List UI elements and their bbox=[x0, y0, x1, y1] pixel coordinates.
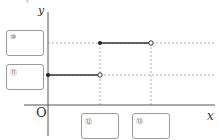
axes bbox=[24, 12, 215, 136]
answer-box-13[interactable]: ⑬ bbox=[132, 113, 170, 139]
upper-open-endpoint bbox=[149, 41, 153, 45]
box-number: ⑪ bbox=[10, 67, 17, 77]
lower-open-endpoint bbox=[98, 73, 102, 77]
x-axis-label: x bbox=[207, 109, 214, 123]
origin-label: O bbox=[36, 105, 47, 120]
y-axis-label: y bbox=[38, 4, 44, 17]
answer-box-11[interactable]: ⑪ bbox=[6, 64, 44, 90]
lower-closed-endpoint bbox=[46, 73, 50, 77]
dashed-guides bbox=[48, 43, 215, 105]
answer-box-12[interactable]: ⑫ bbox=[81, 113, 119, 139]
box-number: ⑩ bbox=[10, 33, 16, 41]
answer-box-10[interactable]: ⑩ bbox=[6, 30, 44, 56]
upper-closed-endpoint bbox=[98, 41, 102, 45]
box-number: ⑫ bbox=[85, 116, 92, 126]
step-segments bbox=[48, 43, 149, 75]
box-number: ⑬ bbox=[136, 116, 143, 126]
